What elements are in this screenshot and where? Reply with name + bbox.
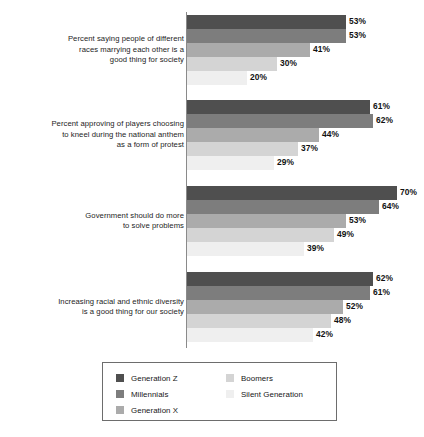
legend-label: Boomers: [241, 374, 273, 383]
bar: [187, 57, 277, 71]
bar: [187, 286, 370, 300]
bar: [187, 314, 331, 328]
bar: [187, 71, 247, 85]
category-label: Percent approving of players choosingto …: [18, 119, 184, 150]
bar-value-label: 30%: [280, 58, 297, 68]
plot-area: Percent saying people of differentraces …: [0, 0, 424, 352]
legend-label: Silent Generation: [241, 390, 303, 399]
bar-group: Percent approving of players choosingto …: [0, 100, 424, 170]
legend-column-right: BoomersSilent Generation: [226, 371, 303, 403]
legend-column-left: Generation ZMillennialsGeneration X: [116, 371, 178, 419]
category-label-line: races marrying each other is a: [18, 45, 184, 55]
bar: [187, 272, 373, 286]
bar-value-label: 39%: [307, 243, 324, 253]
bar: [187, 242, 304, 256]
legend-swatch-icon: [116, 390, 124, 398]
bar-value-label: 42%: [316, 329, 333, 339]
bar: [187, 300, 343, 314]
bar-value-label: 52%: [346, 301, 363, 311]
bar: [187, 114, 373, 128]
bar-group: Government should do moreto solve proble…: [0, 186, 424, 256]
chart-legend: Generation ZMillennialsGeneration X Boom…: [102, 362, 337, 421]
bar-value-label: 61%: [373, 287, 390, 297]
legend-swatch-icon: [116, 374, 124, 382]
bar: [187, 328, 313, 342]
legend-entry[interactable]: Generation Z: [116, 371, 178, 386]
category-label-line: good thing for society: [18, 55, 184, 65]
bar-value-label: 41%: [313, 44, 330, 54]
bar-value-label: 61%: [373, 101, 390, 111]
bar: [187, 15, 346, 29]
category-label-line: is a good thing for our society: [18, 307, 184, 317]
legend-entry[interactable]: Millennials: [116, 387, 178, 402]
bar-value-label: 53%: [349, 16, 366, 26]
bar: [187, 100, 370, 114]
category-label: Percent saying people of differentraces …: [18, 34, 184, 65]
bar-value-label: 53%: [349, 215, 366, 225]
legend-swatch-icon: [226, 390, 234, 398]
category-label-line: as a form of protest: [18, 140, 184, 150]
bar-value-label: 53%: [349, 30, 366, 40]
legend-label: Millennials: [131, 390, 168, 399]
bar-value-label: 44%: [322, 129, 339, 139]
bar-value-label: 64%: [382, 201, 399, 211]
bar: [187, 186, 397, 200]
legend-label: Generation Z: [131, 374, 178, 383]
generational-opinion-bar-chart: Percent saying people of differentraces …: [0, 0, 424, 437]
bar: [187, 200, 379, 214]
category-label-line: Percent approving of players choosing: [18, 119, 184, 129]
category-label-line: to kneel during the national anthem: [18, 130, 184, 140]
category-label-line: Government should do more: [18, 211, 184, 221]
bar-group: Increasing racial and ethnic diversityis…: [0, 272, 424, 342]
legend-entry[interactable]: Generation X: [116, 403, 178, 418]
bar-value-label: 20%: [250, 72, 267, 82]
bar: [187, 43, 310, 57]
legend-entry[interactable]: Boomers: [226, 371, 303, 386]
bar: [187, 156, 274, 170]
bar: [187, 214, 346, 228]
category-label: Government should do moreto solve proble…: [18, 211, 184, 232]
bar-value-label: 37%: [301, 143, 318, 153]
legend-entry[interactable]: Silent Generation: [226, 387, 303, 402]
bar-group: Percent saying people of differentraces …: [0, 15, 424, 85]
bar: [187, 128, 319, 142]
category-label: Increasing racial and ethnic diversityis…: [18, 297, 184, 318]
bar-value-label: 62%: [376, 273, 393, 283]
bar-value-label: 49%: [337, 229, 354, 239]
category-label-line: Increasing racial and ethnic diversity: [18, 297, 184, 307]
category-label-line: Percent saying people of different: [18, 34, 184, 44]
legend-swatch-icon: [116, 406, 124, 414]
category-label-line: to solve problems: [18, 221, 184, 231]
bar-value-label: 48%: [334, 315, 351, 325]
bar: [187, 228, 334, 242]
bar: [187, 142, 298, 156]
bar-value-label: 70%: [400, 187, 417, 197]
legend-label: Generation X: [131, 406, 178, 415]
bar: [187, 29, 346, 43]
bar-value-label: 29%: [277, 157, 294, 167]
bar-value-label: 62%: [376, 115, 393, 125]
legend-swatch-icon: [226, 374, 234, 382]
